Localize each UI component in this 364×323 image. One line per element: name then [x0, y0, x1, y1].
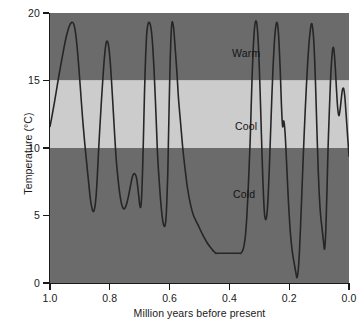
- y-tick-label-15: 15: [0, 75, 40, 86]
- x-tick-label-0.2: 0.2: [269, 293, 309, 304]
- plot-canvas: [50, 13, 349, 283]
- y-tick-label-10: 10: [0, 143, 40, 154]
- x-tick-0.4: [229, 284, 230, 290]
- x-axis-title: Million years before present: [50, 308, 349, 319]
- x-tick-0.6: [169, 284, 170, 290]
- x-tick-0.8: [109, 284, 110, 290]
- x-axis-line: [49, 283, 350, 284]
- y-tick-10: [43, 147, 49, 148]
- plot-area: Warm Cool Cold: [50, 13, 349, 283]
- x-tick-label-0.0: 0.0: [329, 293, 364, 304]
- y-tick-15: [43, 80, 49, 81]
- y-tick-label-5: 5: [0, 210, 40, 221]
- x-tick-label-0.6: 0.6: [150, 293, 190, 304]
- band-label-cool: Cool: [235, 121, 257, 132]
- temperature-history-chart: Warm Cool Cold 20151050 1.00.80.60.40.20…: [0, 0, 364, 323]
- x-tick-0.0: [348, 284, 349, 290]
- y-tick-0: [43, 282, 49, 283]
- x-tick-label-0.4: 0.4: [209, 293, 249, 304]
- band-label-warm: Warm: [232, 48, 260, 59]
- x-tick-label-1.0: 1.0: [30, 293, 70, 304]
- x-tick-label-0.8: 0.8: [90, 293, 130, 304]
- temperature-band-warm: [50, 13, 349, 81]
- x-tick-0.2: [289, 284, 290, 290]
- y-tick-5: [43, 215, 49, 216]
- y-tick-label-20: 20: [0, 8, 40, 19]
- y-axis-title: Temperature (°C): [23, 74, 34, 234]
- x-tick-1.0: [49, 284, 50, 290]
- y-tick-20: [43, 12, 49, 13]
- temperature-band-cold: [50, 148, 349, 283]
- y-tick-label-0: 0: [0, 278, 40, 289]
- y-axis-line: [49, 13, 50, 284]
- band-label-cold: Cold: [233, 189, 255, 200]
